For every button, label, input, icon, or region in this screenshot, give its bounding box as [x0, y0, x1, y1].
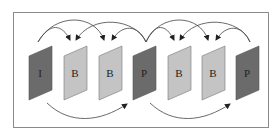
- arrow-p6-to-b4: [180, 22, 250, 42]
- frame-label-0: I: [30, 67, 50, 79]
- arrow-p3-to-b2: [112, 28, 146, 42]
- frame-label-2: B: [100, 67, 120, 79]
- arrow-p3-to-b5: [146, 20, 208, 42]
- arrow-i-to-p3: [47, 103, 127, 119]
- frame-label-4: B: [169, 67, 189, 79]
- frame-label-6: P: [237, 67, 257, 79]
- frame-label-1: B: [65, 67, 85, 79]
- arrow-p6-to-b5: [216, 28, 250, 42]
- frame-label-5: B: [203, 67, 223, 79]
- forward-arrows: [47, 103, 230, 119]
- frame-label-3: P: [134, 67, 154, 79]
- bidirectional-arrows: [38, 20, 250, 42]
- arrow-p3-to-p6: [150, 103, 230, 119]
- arrow-i-to-b2: [38, 20, 104, 42]
- arrow-p3-to-b1: [76, 22, 146, 42]
